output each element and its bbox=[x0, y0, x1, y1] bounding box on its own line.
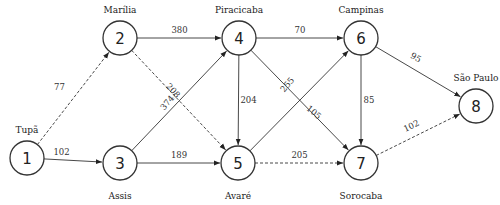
graph-svg: 77102380208374189204701052552058595102 1… bbox=[0, 0, 500, 205]
node-6: 6 bbox=[344, 21, 378, 55]
node-number: 6 bbox=[356, 30, 366, 48]
edge-weight-label: 204 bbox=[240, 95, 256, 105]
node-8: 8 bbox=[459, 89, 493, 123]
city-label: Piracicaba bbox=[215, 5, 263, 15]
node-number: 7 bbox=[356, 155, 366, 173]
edge-weight-label: 255 bbox=[278, 75, 296, 94]
node-number: 2 bbox=[115, 30, 125, 48]
city-label: Assis bbox=[108, 191, 131, 201]
node-number: 3 bbox=[115, 155, 125, 173]
node-number: 4 bbox=[234, 30, 244, 48]
edge-5-6 bbox=[250, 51, 348, 151]
city-label: Sorocaba bbox=[340, 191, 383, 201]
edge-1-2 bbox=[37, 52, 109, 144]
edge-weight-label: 105 bbox=[304, 103, 323, 121]
node-2: 2 bbox=[103, 21, 137, 55]
edge-7-8 bbox=[376, 114, 460, 155]
node-5: 5 bbox=[221, 146, 255, 180]
node-4: 4 bbox=[222, 21, 256, 55]
city-label: Avaré bbox=[225, 191, 251, 201]
city-label: Campinas bbox=[338, 5, 383, 15]
node-3: 3 bbox=[103, 146, 137, 180]
edge-weight-label: 102 bbox=[53, 147, 69, 157]
edge-2-5 bbox=[132, 50, 226, 150]
edge-weight-label: 77 bbox=[54, 82, 65, 92]
graph-canvas: 77102380208374189204701052552058595102 1… bbox=[0, 0, 500, 205]
edge-4-5 bbox=[238, 55, 239, 145]
edge-weight-label: 205 bbox=[291, 150, 307, 160]
edge-weight-label: 102 bbox=[402, 118, 421, 134]
city-label: Tupã bbox=[16, 125, 39, 135]
city-label: Marília bbox=[104, 5, 137, 15]
node-number: 5 bbox=[233, 155, 243, 173]
node-7: 7 bbox=[344, 146, 378, 180]
edge-weight-label: 380 bbox=[171, 25, 187, 35]
node-number: 1 bbox=[22, 150, 32, 168]
edge-weight-label: 85 bbox=[364, 95, 375, 105]
edge-weight-label: 189 bbox=[171, 150, 187, 160]
edge-weight-label: 70 bbox=[295, 25, 306, 35]
edge-1-3 bbox=[44, 159, 102, 162]
node-1: 1 bbox=[10, 141, 44, 175]
edge-weight-label: 95 bbox=[409, 50, 423, 64]
city-label: São Paulo bbox=[454, 73, 499, 83]
node-number: 8 bbox=[471, 98, 481, 116]
